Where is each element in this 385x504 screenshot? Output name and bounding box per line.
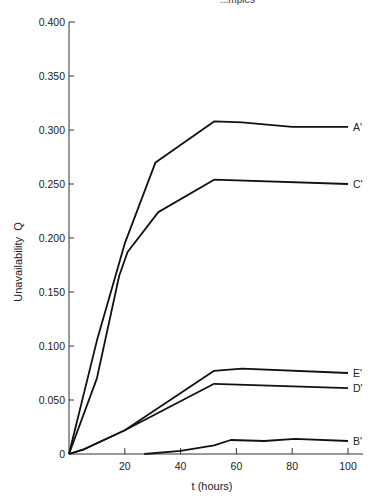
x-tick-label: 40 bbox=[175, 460, 187, 472]
series-label-c-prime: C' bbox=[353, 178, 363, 190]
series-line-a-prime bbox=[69, 121, 348, 454]
series-line-c-prime bbox=[69, 180, 348, 454]
y-tick-label: 0.400 bbox=[39, 16, 65, 28]
line-chart: 00.0500.1000.1500.2000.2500.3000.3500.40… bbox=[0, 0, 385, 504]
series-lines bbox=[69, 121, 348, 454]
x-tick-label: 80 bbox=[286, 460, 298, 472]
series-line-e-prime bbox=[69, 369, 348, 454]
series-label-b-prime: B' bbox=[353, 435, 362, 447]
series-line-b-prime bbox=[144, 439, 348, 454]
y-tick-label: 0.200 bbox=[39, 232, 65, 244]
series-label-e-prime: E' bbox=[353, 367, 362, 379]
x-tick-label: 100 bbox=[339, 460, 357, 472]
series-label-d-prime: D' bbox=[353, 382, 363, 394]
y-tick-label: 0 bbox=[59, 448, 65, 460]
y-tick-label: 0.050 bbox=[39, 394, 65, 406]
y-axis-title: Unavailability Q bbox=[12, 222, 24, 302]
series-line-d-prime bbox=[69, 384, 348, 454]
x-axis-ticks: 20406080100 bbox=[119, 448, 357, 472]
series-labels: A'C'E'D'B' bbox=[353, 121, 363, 447]
x-tick-label: 20 bbox=[119, 460, 131, 472]
y-tick-label: 0.100 bbox=[39, 340, 65, 352]
axis-frame bbox=[69, 22, 363, 454]
axes bbox=[69, 22, 363, 454]
y-tick-label: 0.250 bbox=[39, 178, 65, 190]
series-label-a-prime: A' bbox=[353, 121, 362, 133]
x-axis-title: t (hours) bbox=[192, 480, 233, 492]
y-tick-label: 0.300 bbox=[39, 124, 65, 136]
y-tick-label: 0.350 bbox=[39, 70, 65, 82]
y-tick-label: 0.150 bbox=[39, 286, 65, 298]
x-tick-label: 60 bbox=[231, 460, 243, 472]
